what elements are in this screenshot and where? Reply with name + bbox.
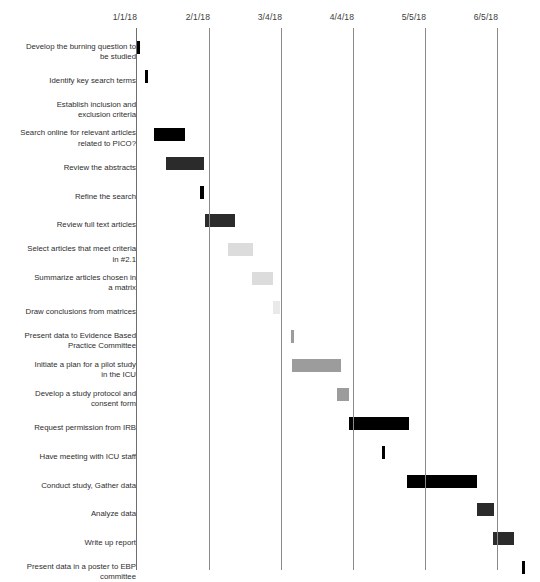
- gantt-row: Have meeting with ICU staff: [0, 445, 540, 474]
- gantt-row: Identify key search terms: [0, 69, 540, 98]
- gantt-row: Search online for relevant articles rela…: [0, 127, 540, 156]
- task-label: Draw conclusions from matrices: [8, 307, 136, 318]
- gantt-bar[interactable]: [291, 330, 294, 343]
- task-label: Develop the burning question to be studi…: [8, 42, 136, 63]
- gantt-bar[interactable]: [166, 157, 204, 170]
- task-label: Review the abstracts: [8, 163, 136, 174]
- gantt-bar[interactable]: [273, 301, 280, 314]
- gantt-row: Request permission from IRB: [0, 416, 540, 445]
- x-axis-tick-label: 1/1/18: [113, 12, 137, 22]
- gantt-row: Review full text articles: [0, 213, 540, 242]
- gantt-row: Draw conclusions from matrices: [0, 300, 540, 329]
- gantt-bar[interactable]: [292, 359, 341, 372]
- gantt-bar[interactable]: [382, 446, 385, 459]
- task-label: Conduct study, Gather data: [8, 481, 136, 492]
- task-label: Have meeting with ICU staff: [8, 452, 136, 463]
- task-label: Establish inclusion and exclusion criter…: [8, 100, 136, 121]
- gantt-bar[interactable]: [522, 561, 525, 574]
- axis-spine: [136, 28, 137, 570]
- task-label: Search online for relevant articles rela…: [8, 128, 136, 149]
- gantt-row: Present data to Evidence Based Practice …: [0, 329, 540, 358]
- gridline: [281, 28, 282, 570]
- gridline: [497, 28, 498, 570]
- task-label: Present data in a poster to EBP committe…: [8, 562, 136, 582]
- gantt-row: Initiate a plan for a pilot study in the…: [0, 358, 540, 387]
- x-axis-tick-label: 3/4/18: [258, 12, 282, 22]
- gantt-bar[interactable]: [228, 243, 253, 256]
- gantt-bar[interactable]: [252, 272, 273, 285]
- x-axis-tick-label: 6/5/18: [474, 12, 498, 22]
- gantt-chart: 1/1/182/1/183/4/184/4/185/5/186/5/18 Dev…: [0, 0, 540, 582]
- task-label: Summarize articles chosen in a matrix: [8, 273, 136, 294]
- gridline: [353, 28, 354, 570]
- gantt-row: Present data in a poster to EBP committe…: [0, 560, 540, 582]
- task-label: Develop a study protocol and consent for…: [8, 389, 136, 410]
- gantt-row: Develop a study protocol and consent for…: [0, 387, 540, 416]
- gantt-row: Establish inclusion and exclusion criter…: [0, 98, 540, 127]
- x-axis-tick-label: 4/4/18: [330, 12, 354, 22]
- task-label: Request permission from IRB: [8, 423, 136, 434]
- task-label: Analyze data: [8, 509, 136, 520]
- gridline: [425, 28, 426, 570]
- gantt-row: Write up report: [0, 531, 540, 560]
- gantt-row: Develop the burning question to be studi…: [0, 40, 540, 69]
- gantt-bar[interactable]: [145, 70, 148, 83]
- task-label: Present data to Evidence Based Practice …: [8, 331, 136, 352]
- task-label: Refine the search: [8, 192, 136, 203]
- task-label: Write up report: [8, 538, 136, 549]
- gantt-bar[interactable]: [200, 186, 204, 199]
- gantt-row: Select articles that meet criteria in #2…: [0, 242, 540, 271]
- gantt-bar[interactable]: [407, 475, 477, 488]
- gantt-row: Analyze data: [0, 502, 540, 531]
- x-axis-tick-label: 2/1/18: [186, 12, 210, 22]
- task-label: Initiate a plan for a pilot study in the…: [8, 360, 136, 381]
- task-label: Identify key search terms: [8, 76, 136, 87]
- gantt-bar[interactable]: [154, 128, 185, 141]
- gantt-bar[interactable]: [337, 388, 349, 401]
- gantt-bar[interactable]: [477, 503, 494, 516]
- x-axis-tick-labels: 1/1/182/1/183/4/184/4/185/5/186/5/18: [0, 0, 540, 30]
- x-axis-tick-label: 5/5/18: [402, 12, 426, 22]
- gantt-row: Refine the search: [0, 185, 540, 214]
- gantt-row: Review the abstracts: [0, 156, 540, 185]
- task-label: Select articles that meet criteria in #2…: [8, 244, 136, 265]
- task-label: Review full text articles: [8, 220, 136, 231]
- gantt-bar[interactable]: [349, 417, 409, 430]
- gridline: [209, 28, 210, 570]
- gantt-rows-layer: Develop the burning question to be studi…: [0, 28, 540, 582]
